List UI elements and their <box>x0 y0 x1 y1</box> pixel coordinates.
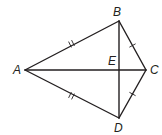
label-c: C <box>150 63 159 77</box>
segment-da <box>25 70 119 118</box>
label-d: D <box>114 121 123 135</box>
label-b: B <box>113 5 121 19</box>
label-e: E <box>108 54 117 68</box>
label-a: A <box>12 63 21 77</box>
segment-ab <box>25 21 119 70</box>
kite-diagram: A B C D E <box>0 0 162 135</box>
